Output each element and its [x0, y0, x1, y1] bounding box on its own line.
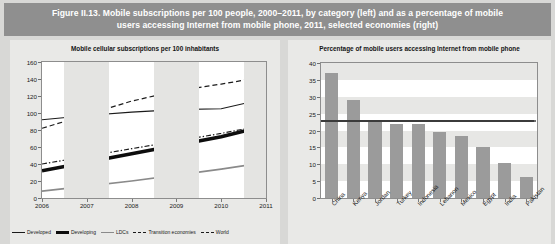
- legend-label: World: [216, 229, 229, 235]
- x-tick-mark: [526, 199, 527, 202]
- x-tick-mark: [440, 199, 441, 202]
- y-tick-label: 35: [309, 76, 316, 83]
- y-tick-label: 140: [27, 76, 37, 83]
- x-tick-mark: [266, 199, 267, 202]
- y-tick-label: 40: [309, 60, 316, 67]
- legend-item[interactable]: Developed: [12, 229, 51, 235]
- x-tick-label: 2008: [125, 202, 139, 209]
- y-tick-label: 15: [309, 144, 316, 151]
- legend-swatch-icon: [56, 231, 69, 234]
- legend-label: Transition economies: [148, 229, 195, 235]
- legend-swatch-icon: [101, 232, 114, 233]
- y-tick-label: 60: [30, 144, 37, 151]
- x-tick-mark: [332, 199, 333, 202]
- y-tick-label: 100: [27, 110, 37, 117]
- x-tick-mark: [375, 199, 376, 202]
- x-tick-mark: [87, 199, 88, 202]
- figure-caption-banner: Figure II.13. Mobile subscriptions per 1…: [4, 3, 551, 36]
- legend-swatch-icon: [133, 232, 146, 233]
- figure-footer: [0, 244, 555, 250]
- y-tick-label: 30: [309, 93, 316, 100]
- right-chart-panel: Percentage of mobile users accessing Int…: [288, 40, 551, 245]
- x-tick-mark: [397, 199, 398, 202]
- average-reference-line: [321, 120, 534, 122]
- bar: [476, 147, 489, 198]
- x-tick-mark: [42, 199, 43, 202]
- x-tick-mark: [505, 199, 506, 202]
- x-tick-label: 2009: [170, 202, 184, 209]
- legend-item[interactable]: LDCs: [101, 229, 129, 235]
- y-tick-label: 20: [309, 127, 316, 134]
- x-tick-mark: [483, 199, 484, 202]
- legend-label: Developed: [27, 229, 51, 235]
- x-tick-mark: [132, 199, 133, 202]
- figure-caption-line1: Figure II.13. Mobile subscriptions per 1…: [52, 8, 503, 18]
- y-tick-label: 160: [27, 59, 37, 66]
- x-tick-mark: [176, 199, 177, 202]
- left-chart-title: Mobile cellular subscriptions per 100 in…: [10, 45, 280, 52]
- plot-band: [64, 62, 109, 198]
- y-tick-label: 25: [309, 110, 316, 117]
- plot-band: [154, 62, 199, 198]
- x-tick-label: 2006: [35, 202, 49, 209]
- left-chart-panel: Mobile cellular subscriptions per 100 in…: [10, 40, 280, 245]
- bar: [347, 100, 360, 198]
- legend-swatch-icon: [12, 232, 25, 233]
- bar: [390, 124, 403, 198]
- x-tick-mark: [353, 199, 354, 202]
- figure-container: Figure II.13. Mobile subscriptions per 1…: [0, 0, 555, 250]
- reference-line-endpoint: [534, 120, 536, 122]
- y-tick-label: 0: [34, 195, 37, 202]
- y-tick-label: 80: [30, 127, 37, 134]
- x-tick-label: 2010: [214, 202, 228, 209]
- x-tick-label: 2011: [259, 202, 272, 209]
- legend-item[interactable]: Developing: [56, 229, 96, 235]
- x-tick-label: 2007: [80, 202, 94, 209]
- bar: [368, 120, 381, 198]
- figure-caption-line2: users accessing Internet from mobile pho…: [52, 20, 503, 32]
- right-chart-title: Percentage of mobile users accessing Int…: [288, 45, 551, 52]
- bar: [498, 163, 511, 198]
- left-chart-legend: DevelopedDevelopingLDCsTransition econom…: [12, 226, 280, 238]
- y-tick-label: 0: [313, 195, 316, 202]
- figure-caption: Figure II.13. Mobile subscriptions per 1…: [52, 8, 503, 31]
- y-tick-label: 10: [309, 161, 316, 168]
- right-chart-plot-area: [320, 62, 538, 199]
- x-tick-mark: [461, 199, 462, 202]
- bar: [325, 73, 338, 198]
- plot-band: [244, 62, 266, 198]
- y-tick-label: 5: [313, 178, 316, 185]
- bar: [412, 124, 425, 198]
- legend-item[interactable]: World: [201, 229, 229, 235]
- x-tick-mark: [221, 199, 222, 202]
- legend-label: LDCs: [116, 229, 129, 235]
- legend-item[interactable]: Transition economies: [133, 229, 195, 235]
- legend-label: Developing: [71, 229, 96, 235]
- x-tick-mark: [418, 199, 419, 202]
- y-tick-label: 20: [30, 178, 37, 185]
- y-tick-label: 40: [30, 161, 37, 168]
- y-tick-label: 120: [27, 93, 37, 100]
- left-chart-plot-area: [41, 61, 267, 199]
- legend-swatch-icon: [201, 232, 214, 233]
- plot-band: [321, 63, 537, 80]
